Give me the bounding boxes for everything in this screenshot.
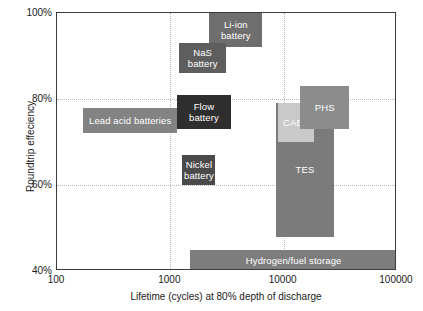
- gridline-vertical: [170, 13, 171, 269]
- data-box: PHS: [300, 86, 349, 129]
- y-axis-title: Roundtrip effeciency: [25, 57, 36, 237]
- x-axis-tick-labels: 100100010000100000: [56, 274, 396, 288]
- plot-area: Li-ion batteryNaS batteryFlow batteryLea…: [56, 12, 396, 270]
- data-box-label: Li-ion battery: [219, 19, 253, 41]
- data-box-label: Lead acid batteries: [87, 115, 173, 126]
- data-box: Flow battery: [177, 95, 230, 129]
- data-box: NaS battery: [179, 43, 226, 73]
- chart-figure: Li-ion batteryNaS batteryFlow batteryLea…: [0, 0, 423, 311]
- data-box: Hydrogen/fuel storage: [190, 250, 395, 270]
- data-box-label: Flow battery: [187, 101, 221, 123]
- data-box: Nickel battery: [182, 155, 215, 185]
- data-box-label: NaS battery: [186, 47, 220, 69]
- data-box-label: Nickel battery: [182, 159, 215, 181]
- gridline-horizontal: [57, 185, 395, 186]
- data-box-label: Hydrogen/fuel storage: [244, 255, 344, 266]
- data-box-label: TES: [294, 164, 317, 175]
- x-tick-label: 100: [48, 274, 65, 285]
- y-tick-label: 100%: [26, 7, 52, 18]
- x-tick-label: 10000: [269, 274, 297, 285]
- data-box-label: PHS: [313, 102, 337, 113]
- x-tick-label: 1000: [158, 274, 180, 285]
- x-tick-label: 100000: [379, 274, 412, 285]
- x-axis-title: Lifetime (cycles) at 80% depth of discha…: [56, 291, 396, 302]
- data-box: Lead acid batteries: [83, 108, 177, 134]
- plot-inner: Li-ion batteryNaS batteryFlow batteryLea…: [57, 13, 395, 269]
